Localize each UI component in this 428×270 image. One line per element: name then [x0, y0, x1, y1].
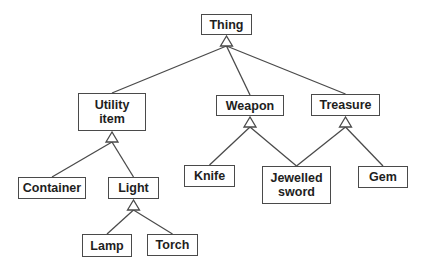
class-box-utility-item: Utility item — [78, 93, 146, 131]
generalization-links — [0, 0, 428, 270]
link-treasure-to-jewelled-sword — [297, 127, 346, 166]
class-hierarchy-diagram: ThingUtility itemWeaponTreasureContainer… — [0, 0, 428, 270]
class-box-knife: Knife — [184, 165, 235, 187]
link-utility-item-to-container — [52, 142, 112, 177]
inheritance-arrow-icon — [221, 36, 233, 46]
link-treasure-to-gem — [346, 127, 384, 166]
inheritance-arrow-icon — [106, 132, 118, 142]
link-utility-item-to-light — [112, 142, 134, 177]
class-box-weapon: Weapon — [216, 95, 284, 116]
link-light-to-lamp — [107, 210, 134, 234]
class-box-lamp: Lamp — [82, 234, 132, 257]
class-box-thing: Thing — [201, 14, 252, 35]
class-box-gem: Gem — [358, 166, 408, 188]
link-thing-to-weapon — [227, 46, 251, 95]
inheritance-arrow-icon — [244, 117, 256, 127]
link-weapon-to-jewelled-sword — [250, 127, 297, 166]
link-thing-to-utility-item — [112, 46, 227, 93]
class-box-light: Light — [108, 177, 159, 199]
class-box-jewelled-sword: Jewelled sword — [262, 166, 331, 204]
link-thing-to-treasure — [227, 46, 346, 94]
class-box-container: Container — [18, 177, 86, 199]
class-box-treasure: Treasure — [311, 94, 380, 116]
inheritance-arrow-icon — [128, 200, 140, 210]
inheritance-arrow-icon — [340, 117, 352, 127]
class-box-torch: Torch — [147, 234, 198, 256]
link-light-to-torch — [134, 210, 173, 234]
link-weapon-to-knife — [210, 127, 251, 165]
